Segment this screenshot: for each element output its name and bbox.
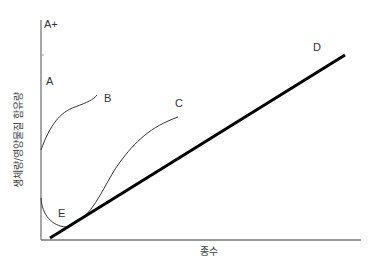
curve-b (41, 95, 97, 150)
diagram-canvas: A+ A B C D E 생체량/영양물질 함유량 종수 (0, 0, 379, 269)
label-d: D (313, 42, 321, 53)
y-axis-label: 생체량/영양물질 함유량 (14, 92, 24, 189)
label-a: A (46, 76, 53, 87)
label-e: E (58, 208, 65, 219)
line-d (50, 55, 345, 238)
label-c: C (175, 98, 183, 109)
x-axis-label: 종수 (200, 247, 218, 257)
diagram-svg (0, 0, 379, 269)
label-b: B (104, 93, 111, 104)
label-a-plus: A+ (44, 19, 58, 30)
